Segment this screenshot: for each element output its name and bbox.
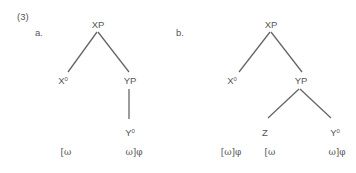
tree-b-z-node: Z [262, 128, 268, 138]
tree-b-yp-node: YP [295, 76, 308, 86]
tree-b-y0-node: Y0 [330, 128, 340, 138]
tree-a-root-node: XP [92, 20, 105, 30]
branch-a-xp-x0 [68, 32, 97, 72]
tree-a-y0-node: Y0 [125, 128, 135, 138]
branch-b-xp-x0 [239, 32, 270, 72]
branch-b-yp-z [268, 89, 299, 118]
example-number: (3) [17, 12, 29, 22]
subexample-label-a: a. [35, 28, 43, 38]
branch-b-xp-yp [271, 32, 302, 72]
tree-a-x0-node: X0 [58, 76, 68, 86]
tree-a-phon-2: ω]φ [125, 148, 142, 157]
tree-b-root-node: XP [265, 20, 278, 30]
tree-b-phon-3: ω]φ [328, 148, 345, 157]
branch-a-xp-yp [98, 32, 129, 72]
tree-b-phon-1: [ω]φ [221, 148, 242, 157]
subexample-label-b: b. [176, 28, 184, 38]
branch-b-yp-y0 [300, 89, 331, 118]
tree-b-phon-2: [ω [265, 148, 276, 157]
tree-a-yp-node: YP [124, 76, 137, 86]
tree-a-phon-1: [ω [61, 148, 72, 157]
tree-b-x0-node: X0 [227, 76, 237, 86]
tree-branches [0, 0, 356, 173]
